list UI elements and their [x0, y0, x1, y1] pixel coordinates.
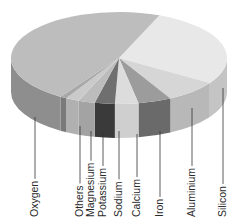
- slice-side-iron: [138, 98, 170, 137]
- slice-side-potassium: [79, 101, 95, 137]
- label-aluminium: Aluminium: [186, 168, 197, 217]
- slice-side-magnesium: [66, 98, 78, 134]
- label-oxygen: Oxygen: [29, 181, 40, 217]
- slice-side-sodium: [95, 103, 115, 138]
- label-potassium: Potassium: [97, 168, 108, 217]
- slice-side-others: [60, 97, 66, 132]
- slice-side-calcium: [115, 103, 139, 138]
- label-calcium: Calcium: [131, 179, 142, 217]
- label-iron: Iron: [154, 199, 165, 217]
- label-sodium: Sodium: [113, 181, 124, 217]
- label-silicon: Silicon: [217, 186, 228, 217]
- label-magnesium: Magnesium: [85, 163, 96, 217]
